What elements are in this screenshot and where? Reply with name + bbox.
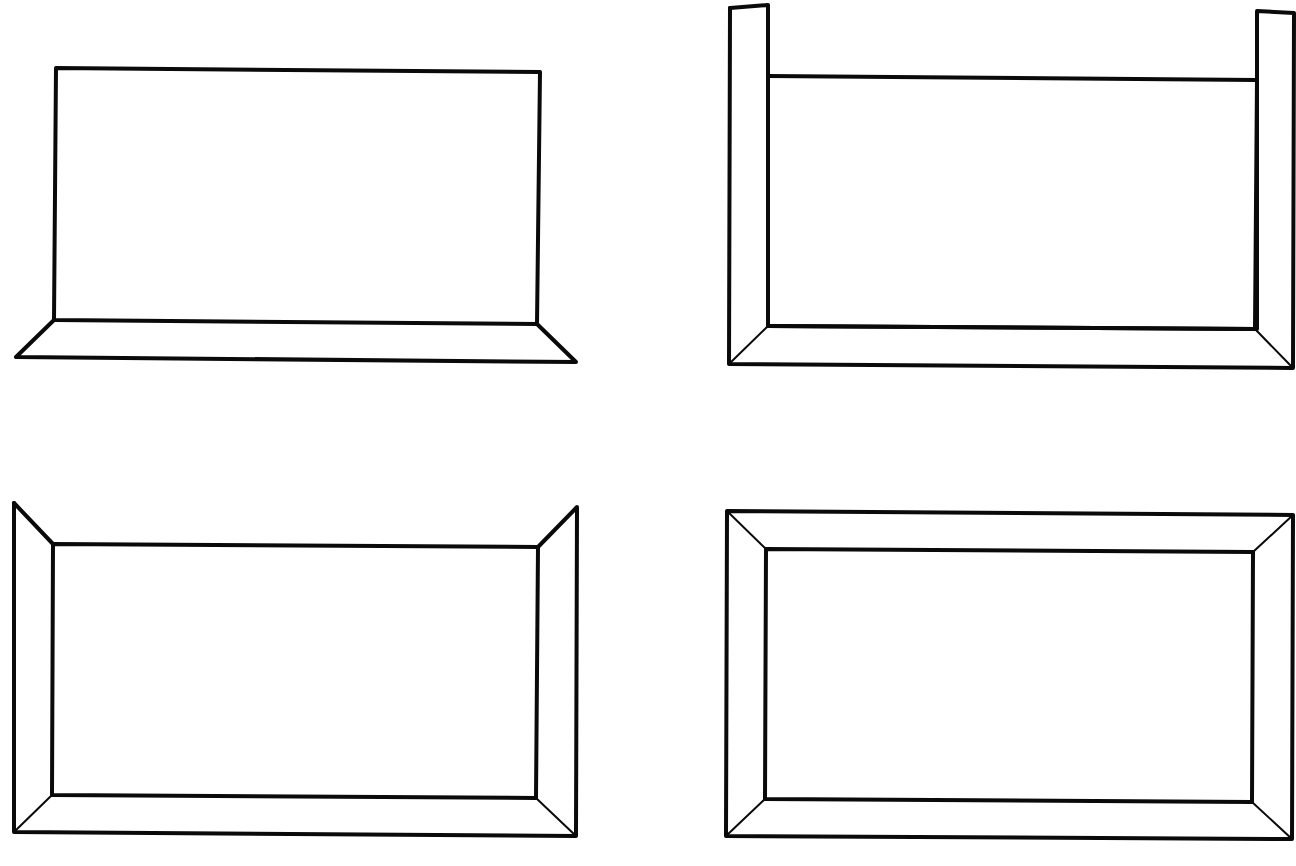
frame-outline-stroke xyxy=(765,549,1253,802)
frame-outline-stroke xyxy=(726,511,1293,839)
molding-frame-diagram xyxy=(0,0,1296,866)
miter-joint-line xyxy=(1253,515,1293,552)
frame-outline-stroke xyxy=(768,76,1257,329)
frame-outline-stroke xyxy=(14,503,53,544)
frame-outline-stroke xyxy=(730,5,768,326)
miter-joint-line xyxy=(14,795,52,832)
panel-sides-and-bottom xyxy=(14,503,577,836)
miter-joint-line xyxy=(536,798,576,836)
miter-joint-line xyxy=(729,326,768,364)
miter-joint-line xyxy=(727,511,766,549)
frame-outline-stroke xyxy=(14,503,577,836)
miter-joint-line xyxy=(1255,329,1293,368)
panel-full-frame xyxy=(726,511,1293,839)
frame-outline-stroke xyxy=(54,68,540,324)
frame-outline-stroke xyxy=(16,320,576,362)
miter-joint-line xyxy=(726,799,765,836)
panel-bottom-and-tall-sides xyxy=(729,5,1294,368)
frame-outline-stroke xyxy=(52,544,538,798)
miter-joint-line xyxy=(1252,802,1292,839)
frame-outline-stroke xyxy=(729,8,1294,368)
panel-bottom-trim xyxy=(16,68,576,362)
frame-outline-stroke xyxy=(768,326,1255,329)
